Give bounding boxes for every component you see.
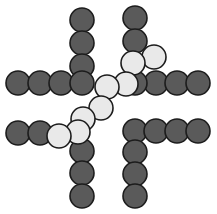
bottom-right-col-node-1 [123, 140, 147, 164]
top-left-arm-node-2 [70, 31, 94, 55]
light-chain-node-1 [142, 45, 166, 69]
bottom-right-row-node-4 [186, 119, 210, 143]
top-right-arm-node-2 [123, 29, 147, 53]
left-arm-node-4 [70, 71, 94, 95]
top-right-arm-node-1 [123, 6, 147, 30]
bottom-left-arm-node-1 [6, 121, 30, 145]
bottom-right-col-node-3 [123, 184, 147, 208]
circle-cluster-figure [0, 0, 217, 214]
bottom-mid-node-2 [70, 161, 94, 185]
right-arm-node-4 [186, 71, 210, 95]
bottom-mid-node-3 [70, 184, 94, 208]
light-chain-node-8 [47, 124, 71, 148]
light-chain-node-4 [95, 75, 119, 99]
bottom-right-col-node-2 [123, 162, 147, 186]
top-left-arm-node-1 [70, 8, 94, 32]
figure-canvas [0, 0, 217, 214]
left-arm-node-1 [6, 71, 30, 95]
